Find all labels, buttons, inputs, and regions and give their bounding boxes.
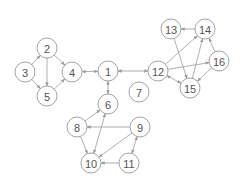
edge-12-16	[168, 63, 209, 70]
node-label: 14	[199, 24, 211, 36]
edge-9-11	[132, 137, 137, 154]
node-label: 11	[123, 158, 134, 170]
node-label: 9	[137, 122, 143, 134]
node-label: 4	[69, 67, 75, 79]
edge-16-14	[209, 38, 215, 52]
node-3: 3	[15, 62, 35, 82]
node-7: 7	[129, 82, 149, 102]
graph-diagram: 12345678910111213141516	[0, 0, 243, 182]
node-9: 9	[130, 117, 150, 137]
edge-12-14	[165, 36, 197, 65]
node-13: 13	[161, 19, 181, 39]
edge-12-15	[167, 76, 181, 84]
edge-3-2	[32, 55, 40, 64]
node-16: 16	[209, 51, 229, 71]
node-label: 3	[22, 67, 28, 79]
node-label: 2	[44, 43, 50, 55]
node-label: 5	[44, 91, 50, 103]
edge-6-10	[94, 114, 105, 154]
node-label: 7	[136, 87, 142, 99]
node-1: 1	[98, 61, 118, 81]
node-8: 8	[67, 117, 87, 137]
node-label: 10	[85, 158, 97, 170]
node-10: 10	[81, 153, 101, 173]
node-label: 1	[105, 66, 111, 78]
node-4: 4	[62, 62, 82, 82]
edge-5-4	[54, 79, 65, 89]
edge-8-6	[85, 110, 100, 121]
node-2: 2	[37, 38, 57, 58]
node-5: 5	[37, 86, 57, 106]
node-label: 13	[165, 24, 177, 36]
node-label: 6	[105, 99, 111, 111]
node-12: 12	[148, 61, 168, 81]
edge-3-5	[32, 79, 40, 88]
edge-8-10	[81, 136, 88, 153]
node-label: 16	[213, 56, 225, 68]
node-label: 15	[184, 83, 196, 95]
nodes-layer: 12345678910111213141516	[15, 19, 229, 173]
edge-13-15	[174, 39, 187, 79]
edge-15-14	[192, 39, 202, 79]
node-label: 12	[152, 66, 164, 78]
node-14: 14	[195, 19, 215, 39]
node-label: 8	[74, 122, 80, 134]
edge-2-4	[54, 55, 65, 65]
node-11: 11	[119, 153, 139, 173]
node-6: 6	[98, 94, 118, 114]
edge-16-15	[197, 68, 211, 81]
node-15: 15	[180, 78, 200, 98]
